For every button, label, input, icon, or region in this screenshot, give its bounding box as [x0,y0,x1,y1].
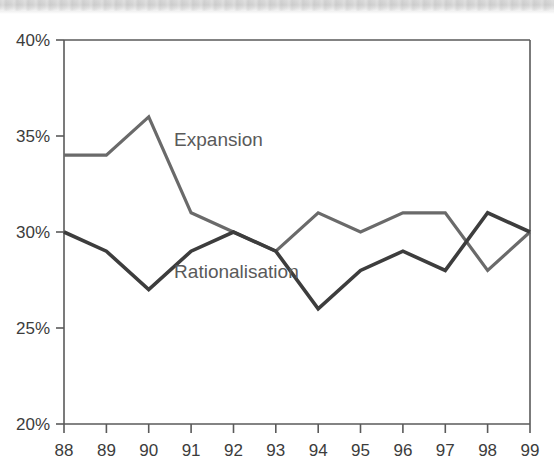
x-tick-label-91: 91 [182,441,201,460]
y-tick-labels: 40% 35% 30% 25% 20% [16,31,50,434]
line-chart: 40% 35% 30% 25% 20% 88 89 90 91 [0,0,554,475]
x-tick-marks [64,424,530,433]
x-tick-label-93: 93 [266,441,285,460]
x-tick-label-89: 89 [97,441,116,460]
annotation-rationalisation: Rationalisation [174,261,299,282]
x-tick-labels: 88 89 90 91 92 93 94 95 96 97 98 99 [55,441,540,460]
x-tick-label-97: 97 [436,441,455,460]
y-tick-label-30: 30% [16,223,50,242]
x-tick-label-99: 99 [521,441,540,460]
chart-page: 40% 35% 30% 25% 20% 88 89 90 91 [0,0,554,475]
x-tick-label-90: 90 [139,441,158,460]
x-tick-label-88: 88 [55,441,74,460]
x-tick-label-92: 92 [224,441,243,460]
x-tick-label-98: 98 [478,441,497,460]
x-tick-label-95: 95 [351,441,370,460]
x-tick-label-96: 96 [393,441,412,460]
y-tick-label-35: 35% [16,127,50,146]
y-tick-label-25: 25% [16,319,50,338]
y-tick-marks [56,40,64,424]
y-tick-label-20: 20% [16,415,50,434]
annotation-expansion: Expansion [174,129,263,150]
x-tick-label-94: 94 [309,441,328,460]
y-tick-label-40: 40% [16,31,50,50]
